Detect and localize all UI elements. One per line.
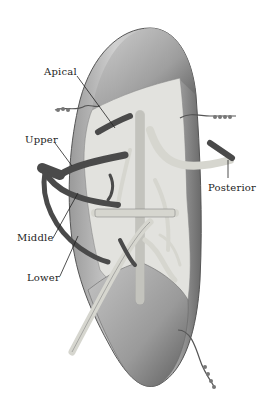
label-middle: Middle	[17, 232, 54, 243]
label-lower: Lower	[27, 272, 60, 283]
label-posterior: Posterior	[208, 182, 256, 193]
label-apical: Apical	[44, 66, 77, 77]
lung-illustration	[0, 0, 266, 403]
label-upper: Upper	[25, 134, 58, 145]
